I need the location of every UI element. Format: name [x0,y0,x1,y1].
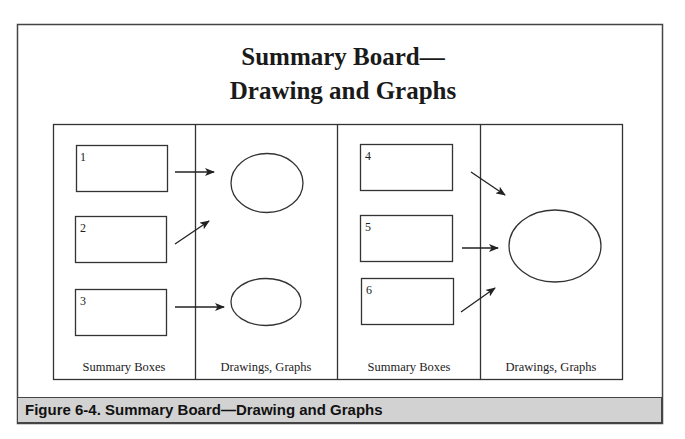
arrow-6 [461,288,495,312]
title-line-1: Summary Board— [241,43,445,70]
summary-box-4: 4 [361,145,453,191]
drawing-ellipse-1 [231,154,303,213]
summary-box-2: 2 [76,217,167,263]
box-number: 4 [365,149,371,163]
drawing-ellipse-3 [509,210,601,282]
summary-box-1: 1 [77,146,168,192]
panel-label-drawings-graphs: Drawings, Graphs [221,360,312,374]
box-number: 5 [365,220,371,234]
box-number: 6 [366,283,372,297]
summary-box-6: 6 [362,279,454,325]
drawing-ellipse-2 [231,279,301,326]
summary-box-3: 3 [76,290,167,336]
figure-caption: Figure 6-4. Summary Board—Drawing and Gr… [17,397,662,423]
summary-box-5: 5 [361,216,453,262]
summary-board-figure: Summary Board— Drawing and Graphs Summar… [0,0,685,439]
panel-label-drawings-graphs: Drawings, Graphs [506,360,597,374]
box-number: 2 [80,221,86,235]
title-line-2: Drawing and Graphs [230,77,457,104]
panel-label-summary-boxes: Summary Boxes [368,360,451,374]
box-number: 1 [80,150,86,164]
diagram-canvas: Summary Board— Drawing and Graphs Summar… [0,0,685,439]
arrow-2 [175,221,209,244]
box-number: 3 [80,294,86,308]
panel-label-summary-boxes: Summary Boxes [83,360,166,374]
arrow-4 [471,172,505,195]
